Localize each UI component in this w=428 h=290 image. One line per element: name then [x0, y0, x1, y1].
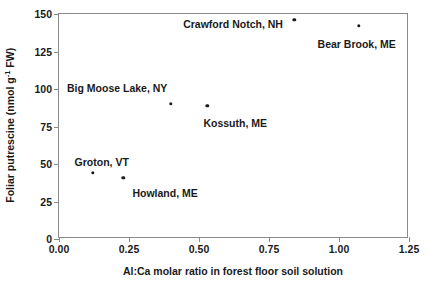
data-point — [292, 18, 295, 21]
point-annotation-label: Bear Brook, ME — [318, 39, 396, 50]
x-tick-label: 1.00 — [329, 244, 349, 255]
y-tick-label: 100 — [34, 84, 52, 95]
y-tick-mark — [54, 202, 59, 203]
y-axis-label-superscript: -1 — [2, 71, 11, 78]
y-axis-label-text: Foliar putrescine (nmol g-1 FW) — [5, 48, 16, 203]
x-tick-mark — [269, 237, 270, 242]
y-tick-mark — [54, 52, 59, 53]
y-tick-label: 125 — [34, 46, 52, 57]
y-tick-label: 75 — [40, 121, 52, 132]
y-axis-label-post: FW) — [4, 48, 16, 71]
scatter-plot-figure: Foliar putrescine (nmol g-1 FW) 02550751… — [0, 0, 428, 290]
y-axis-label-pre: Foliar putrescine (nmol g — [4, 78, 16, 203]
x-tick-mark — [409, 237, 410, 242]
y-tick-label: 25 — [40, 196, 52, 207]
data-point — [206, 104, 209, 107]
data-point — [357, 24, 360, 27]
y-tick-label: 50 — [40, 159, 52, 170]
point-annotation-label: Big Moose Lake, NY — [67, 83, 167, 94]
y-tick-mark — [54, 127, 59, 128]
y-tick-mark — [54, 89, 59, 90]
y-axis-label: Foliar putrescine (nmol g-1 FW) — [2, 13, 18, 238]
data-point — [122, 176, 125, 179]
point-annotation-label: Kossuth, ME — [203, 118, 267, 129]
x-tick-mark — [59, 237, 60, 242]
data-point — [91, 171, 94, 174]
x-tick-label: 0.00 — [49, 244, 69, 255]
x-tick-label: 1.25 — [399, 244, 419, 255]
x-tick-label: 0.50 — [189, 244, 209, 255]
point-annotation-label: Howland, ME — [132, 188, 197, 199]
x-tick-mark — [199, 237, 200, 242]
x-tick-label: 0.75 — [259, 244, 279, 255]
plot-area: 0255075100125150 0.000.250.500.751.001.2… — [58, 13, 408, 238]
point-annotation-label: Groton, VT — [75, 157, 129, 168]
x-tick-mark — [129, 237, 130, 242]
data-point — [169, 102, 172, 105]
x-tick-label: 0.25 — [119, 244, 139, 255]
point-annotation-label: Crawford Notch, NH — [183, 19, 283, 30]
y-tick-label: 150 — [34, 9, 52, 20]
y-tick-mark — [54, 164, 59, 165]
x-tick-mark — [339, 237, 340, 242]
x-axis-label: Al:Ca molar ratio in forest floor soil s… — [58, 266, 408, 277]
y-tick-mark — [54, 14, 59, 15]
